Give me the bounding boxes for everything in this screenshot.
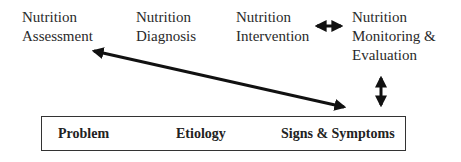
pes-statement-box: Problem Etiology Signs & Symptoms [41, 116, 406, 151]
pes-problem: Problem [58, 126, 109, 142]
pes-signs-symptoms: Signs & Symptoms [281, 126, 395, 142]
pes-etiology: Etiology [176, 126, 226, 142]
diagonal-arrow-icon [94, 51, 344, 107]
